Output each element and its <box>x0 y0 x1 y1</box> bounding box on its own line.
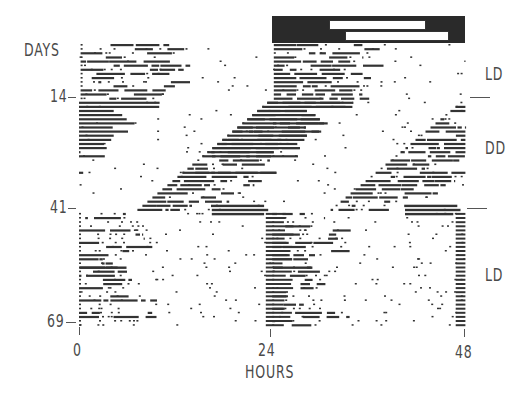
actogram-activity-plot <box>0 0 523 398</box>
